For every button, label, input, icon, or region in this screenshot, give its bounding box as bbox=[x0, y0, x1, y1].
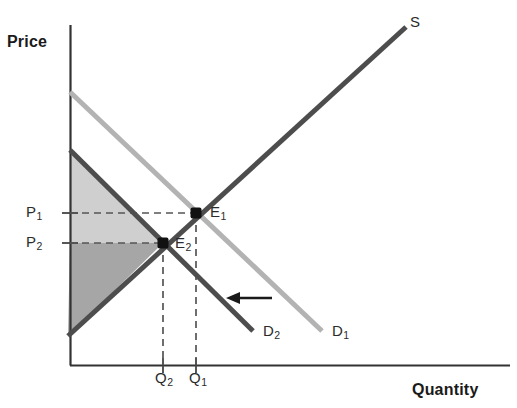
demand-curve-1-label: D1 bbox=[332, 322, 349, 339]
quantity-1-tick-label-text: Q bbox=[189, 369, 201, 386]
equilibrium-point-2 bbox=[158, 238, 169, 249]
plot-canvas bbox=[0, 0, 517, 408]
price-2-tick-label-text: P bbox=[26, 233, 36, 250]
quantity-1-tick-label: Q1 bbox=[189, 369, 207, 386]
equilibrium-1-label-sub: 1 bbox=[220, 210, 226, 222]
quantity-2-tick-label-sub: 2 bbox=[167, 376, 173, 388]
demand-shift-arrow bbox=[226, 292, 272, 304]
demand-curve-1-label-sub: 1 bbox=[343, 329, 349, 341]
x-axis-title: Quantity bbox=[412, 381, 479, 399]
quantity-2-tick-label: Q2 bbox=[155, 369, 173, 386]
demand-curve-2-label-sub: 2 bbox=[274, 329, 280, 341]
price-1-tick-label: P1 bbox=[26, 203, 42, 220]
equilibrium-2-label-sub: 2 bbox=[185, 241, 191, 253]
equilibrium-point-1 bbox=[191, 208, 202, 219]
quantity-1-tick-label-sub: 1 bbox=[201, 376, 207, 388]
equilibrium-2-label: E2 bbox=[175, 234, 191, 251]
supply-curve-label: S bbox=[410, 13, 420, 30]
y-axis-title: Price bbox=[7, 33, 47, 51]
equilibrium-1-label-text: E bbox=[210, 203, 220, 220]
demand-curve-2-label-text: D bbox=[263, 322, 274, 339]
equilibrium-2-label-text: E bbox=[175, 234, 185, 251]
price-2-tick-label-sub: 2 bbox=[36, 240, 42, 252]
demand-curve-2-label: D2 bbox=[263, 322, 280, 339]
quantity-2-tick-label-text: Q bbox=[155, 369, 167, 386]
price-1-tick-label-sub: 1 bbox=[36, 210, 42, 222]
demand-curve-1-label-text: D bbox=[332, 322, 343, 339]
price-2-tick-label: P2 bbox=[26, 233, 42, 250]
supply-demand-figure: Price Quantity S D1 D2 E1 E2 P1 P2 Q1 Q2 bbox=[0, 0, 517, 408]
equilibrium-1-label: E1 bbox=[210, 203, 226, 220]
supply-curve bbox=[68, 27, 406, 336]
price-1-tick-label-text: P bbox=[26, 203, 36, 220]
